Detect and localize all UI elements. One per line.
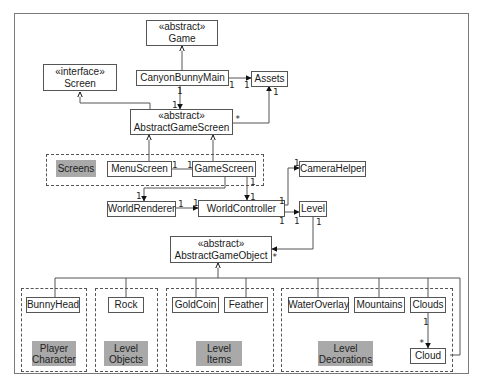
stereotype-label: «abstract» <box>198 238 245 250</box>
multiplicity-label: 1 <box>250 178 255 187</box>
label-line: Level <box>114 343 138 354</box>
multiplicity-label: 1 <box>423 318 428 327</box>
class-name: Feather <box>229 299 263 311</box>
class-game-screen[interactable]: GameScreen <box>192 161 256 177</box>
class-world-controller[interactable]: WorldController <box>198 200 285 217</box>
class-assets[interactable]: Assets <box>251 71 288 87</box>
class-cloud[interactable]: Cloud <box>410 348 446 364</box>
class-abstract-game-object[interactable]: «abstract» AbstractGameObject <box>170 236 272 263</box>
label-text: Screens <box>58 163 95 174</box>
class-game[interactable]: «abstract» Game <box>146 20 218 46</box>
class-water-overlay[interactable]: WaterOverlay <box>288 297 349 313</box>
multiplicity-label: 1 <box>279 217 284 226</box>
class-name: Level <box>301 203 325 215</box>
group-label-level-objects: Level Objects <box>104 341 148 366</box>
class-clouds[interactable]: Clouds <box>410 297 446 313</box>
group-label-player-character: Player Character <box>32 341 76 366</box>
multiplicity-label: * <box>235 115 240 124</box>
multiplicity-label: 1 <box>294 159 299 168</box>
class-name: AbstractGameObject <box>175 250 268 262</box>
class-camera-helper[interactable]: CameraHelper <box>299 161 366 177</box>
class-mountains[interactable]: Mountains <box>354 297 405 313</box>
multiplicity-label: 1 <box>316 218 321 227</box>
class-name: Cloud <box>415 350 441 362</box>
multiplicity-label: 1 <box>172 161 177 170</box>
label-line: Level <box>207 343 231 354</box>
class-name: WaterOverlay <box>288 299 349 311</box>
class-level[interactable]: Level <box>299 201 327 217</box>
class-canyon-bunny-main[interactable]: CanyonBunnyMain <box>136 70 229 86</box>
multiplicity-label: 1 <box>177 87 182 96</box>
class-name: BunnyHead <box>27 299 79 311</box>
class-name: CanyonBunnyMain <box>140 72 225 84</box>
group-label-level-decorations: Level Decorations <box>318 341 373 366</box>
class-name: WorldController <box>207 203 276 215</box>
multiplicity-label: 1 <box>279 197 284 206</box>
class-name: AbstractGameScreen <box>134 122 230 134</box>
label-line: Player <box>40 343 68 354</box>
multiplicity-label: * <box>272 253 277 262</box>
class-abstract-game-screen[interactable]: «abstract» AbstractGameScreen <box>130 109 233 135</box>
label-line: Level <box>334 343 358 354</box>
class-name: Mountains <box>356 299 402 311</box>
label-line: Decorations <box>319 354 372 365</box>
class-feather[interactable]: Feather <box>224 297 268 313</box>
multiplicity-label: 1 <box>178 200 183 209</box>
multiplicity-label: 1 <box>187 161 192 170</box>
multiplicity-label: 1 <box>136 192 141 201</box>
multiplicity-label: 1 <box>172 101 177 110</box>
stereotype-label: «abstract» <box>158 110 205 122</box>
class-name: Screen <box>64 78 96 90</box>
class-name: GameScreen <box>195 163 254 175</box>
class-name: Clouds <box>412 299 443 311</box>
class-screen[interactable]: «interface» Screen <box>43 64 117 91</box>
class-name: MenuScreen <box>111 163 168 175</box>
class-name: CameraHelper <box>300 163 365 175</box>
multiplicity-label: * <box>419 339 424 348</box>
group-label-screens: Screens <box>56 160 96 177</box>
class-gold-coin[interactable]: GoldCoin <box>172 297 219 313</box>
multiplicity-label: 1 <box>193 199 198 208</box>
multiplicity-label: 1 <box>229 81 234 90</box>
label-line: Character <box>32 354 76 365</box>
stereotype-label: «interface» <box>55 66 104 78</box>
class-name: Rock <box>115 299 138 311</box>
group-label-level-items: Level Items <box>196 341 242 366</box>
multiplicity-label: 1 <box>273 88 278 97</box>
class-rock[interactable]: Rock <box>108 297 144 313</box>
class-menu-screen[interactable]: MenuScreen <box>107 161 172 177</box>
label-line: Objects <box>109 354 143 365</box>
class-world-renderer[interactable]: WorldRenderer <box>107 201 176 217</box>
multiplicity-label: 1 <box>250 193 255 202</box>
label-line: Items <box>207 354 231 365</box>
stereotype-label: «abstract» <box>159 21 206 33</box>
multiplicity-label: 1 <box>244 81 249 90</box>
class-name: WorldRenderer <box>108 203 176 215</box>
class-bunny-head[interactable]: BunnyHead <box>26 297 80 313</box>
class-name: GoldCoin <box>175 299 217 311</box>
class-name: Assets <box>254 73 284 85</box>
class-name: Game <box>168 33 195 45</box>
multiplicity-label: 1 <box>294 217 299 226</box>
